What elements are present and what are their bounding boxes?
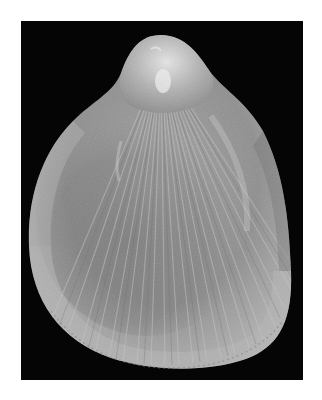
shell-body: [21, 21, 303, 380]
photo-panel: [21, 21, 303, 380]
image-canvas: Bivalve seashell (single valve) with rad…: [0, 0, 322, 400]
image-subject: Bivalve seashell (single valve) with rad…: [0, 0, 1, 1]
shell-photo: [21, 21, 303, 380]
